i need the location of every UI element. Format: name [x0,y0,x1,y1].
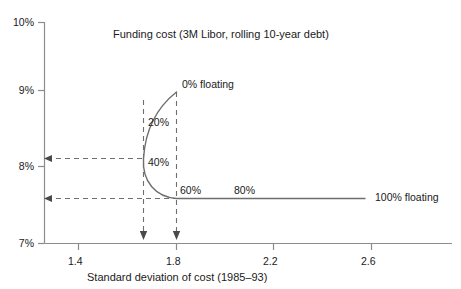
y-tick-label-8: 8% [2,161,34,172]
chart-container: Funding cost (3M Libor, rolling 10-year … [0,0,461,289]
chart-title: Funding cost (3M Libor, rolling 10-year … [113,29,329,40]
annotation-20-percent: 20% [148,117,169,128]
arrowhead-left-upper-icon [44,155,52,162]
x-tick-label-1-4: 1.4 [68,256,83,267]
x-tick-label-1-8: 1.8 [166,256,181,267]
y-tick-label-10: 10% [2,17,34,28]
arrowhead-down-right-icon [173,231,180,240]
chart-canvas [0,0,461,289]
arrowhead-left-lower-icon [44,195,52,202]
annotation-40-percent: 40% [148,157,169,168]
x-tick-label-2-6: 2.6 [361,256,376,267]
x-tick-label-2-2: 2.2 [263,256,278,267]
y-tick-label-7: 7% [2,238,34,249]
annotation-80-percent: 80% [234,185,255,196]
annotation-100-percent-floating: 100% floating [375,192,439,203]
y-tick-label-9: 9% [2,85,34,96]
annotation-0-percent-floating: 0% floating [182,79,234,90]
arrowhead-down-left-icon [140,231,147,240]
x-axis-title: Standard deviation of cost (1985–93) [87,272,267,283]
annotation-60-percent: 60% [180,185,201,196]
